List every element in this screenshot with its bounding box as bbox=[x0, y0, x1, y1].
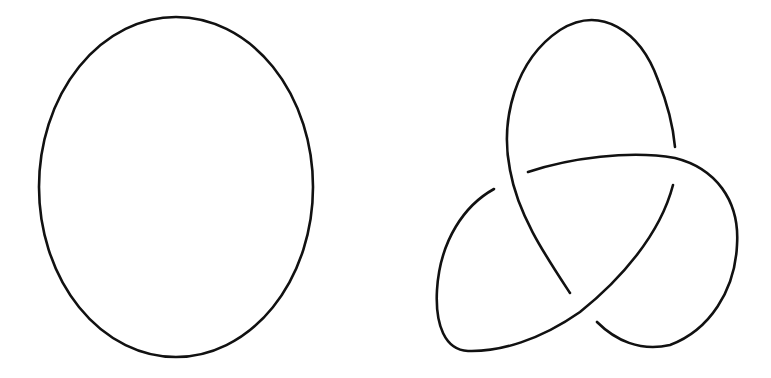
unknot-ellipse bbox=[39, 17, 313, 357]
unknot-figure bbox=[39, 17, 313, 357]
trefoil-strand-right bbox=[528, 155, 737, 347]
trefoil-figure bbox=[437, 20, 737, 351]
knot-diagram-canvas bbox=[0, 0, 771, 378]
